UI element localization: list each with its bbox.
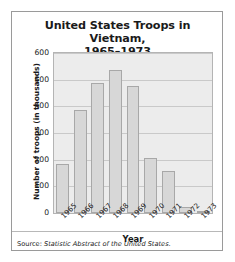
y-tick-600: 600 — [23, 48, 49, 57]
plot-area — [53, 52, 213, 214]
bar-1969 — [127, 86, 140, 213]
y-tick-200: 200 — [23, 154, 49, 163]
y-tick-500: 500 — [23, 74, 49, 83]
y-tick-100: 100 — [23, 181, 49, 190]
gridline — [54, 80, 212, 81]
source-prefix: Source: — [17, 240, 44, 248]
y-tick-400: 400 — [23, 101, 49, 110]
source-suffix: . — [169, 240, 171, 248]
gridline — [54, 53, 212, 54]
chart-figure: United States Troops in Vietnam, 1965–19… — [11, 11, 223, 251]
bar-1968 — [109, 70, 122, 213]
source-divider — [12, 231, 222, 232]
source-publication-title: Statistic Abstract of the United States — [44, 240, 169, 248]
chart-title-line-1: United States Troops in Vietnam, — [45, 19, 191, 45]
y-tick-0: 0 — [23, 208, 49, 217]
bar-1967 — [91, 83, 104, 213]
y-axis-tick-labels: 0100200300400500600 — [19, 52, 49, 212]
y-tick-300: 300 — [23, 128, 49, 137]
source-note: Source: Statistic Abstract of the United… — [17, 240, 171, 248]
bar-1966 — [74, 110, 87, 213]
